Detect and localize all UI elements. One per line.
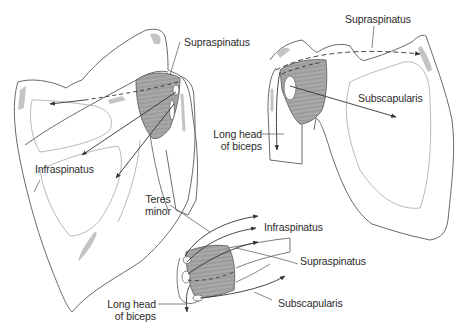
label-long-head-anterior-line2: of biceps [206,140,262,152]
label-long-head-anterior-line1: Long head [206,128,262,140]
label-supraspinatus-superior: Supraspinatus [300,255,366,267]
anterior-view [262,26,454,240]
label-infraspinatus-posterior: Infraspinatus [35,163,94,175]
rotator-cuff-diagram: Supraspinatus Infraspinatus Teres minor … [0,0,457,331]
label-long-head-superior-line2: of biceps [100,310,156,322]
label-long-head-superior-line1: Long head [100,298,156,310]
label-teres-minor-line2: minor [140,205,176,217]
muscle-superior [186,245,235,298]
label-teres-minor-line1: Teres [140,193,176,205]
label-subscapularis-superior: Subscapularis [278,297,343,309]
label-subscapularis-anterior: Subscapularis [358,92,423,104]
label-supraspinatus-posterior: Supraspinatus [184,36,250,48]
label-supraspinatus-anterior: Supraspinatus [345,13,411,25]
label-infraspinatus-superior: Infraspinatus [264,221,323,233]
